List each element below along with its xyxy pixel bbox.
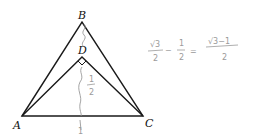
label-c: C bbox=[145, 117, 154, 130]
expr-bar-1 bbox=[148, 50, 163, 51]
expr-result-num: √3−1 bbox=[208, 37, 230, 46]
expr-sqrt3-den: 2 bbox=[153, 54, 158, 63]
bd-wavy-mark bbox=[82, 24, 85, 46]
half-denominator: 2 bbox=[89, 88, 94, 97]
label-d: D bbox=[77, 44, 87, 57]
expr-result-den: 2 bbox=[222, 53, 227, 62]
expr-minus: − bbox=[165, 46, 172, 55]
right-angle-marker bbox=[78, 57, 86, 65]
handwritten-expression: √3 2 − 1 2 = √3−1 2 bbox=[148, 37, 238, 63]
expr-equals: = bbox=[190, 47, 197, 56]
base-length: 1 bbox=[78, 127, 83, 136]
expr-half-den: 2 bbox=[179, 53, 184, 62]
height-wavy-mark bbox=[79, 67, 82, 116]
triangle-abc bbox=[22, 22, 143, 116]
label-a: A bbox=[12, 119, 21, 132]
expr-sqrt3-num: √3 bbox=[150, 40, 160, 49]
geometry-diagram: B D A C 1 2 1 √3 2 − 1 2 = √3−1 2 bbox=[0, 0, 253, 139]
label-b: B bbox=[77, 9, 86, 22]
half-numerator: 1 bbox=[89, 75, 94, 84]
half-bar bbox=[87, 84, 95, 85]
expr-half-num: 1 bbox=[179, 39, 184, 48]
